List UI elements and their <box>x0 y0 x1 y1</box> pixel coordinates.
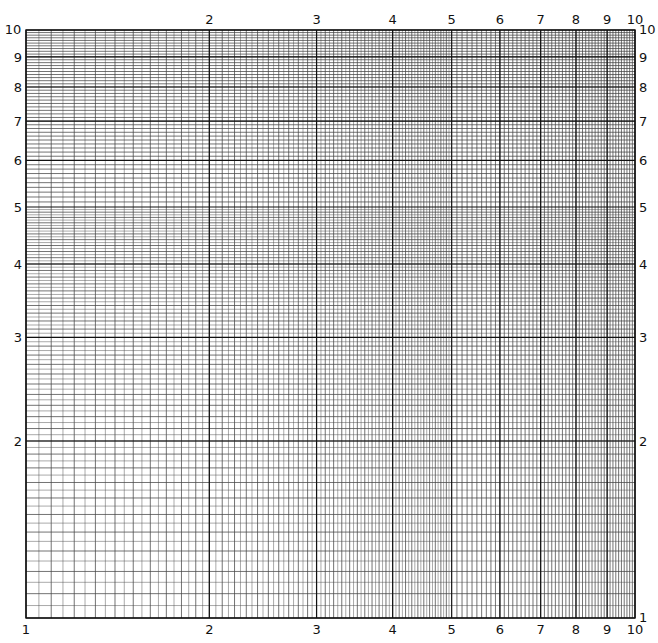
y-axis-right-label: 2 <box>639 434 647 449</box>
y-axis-left-label: 7 <box>14 114 22 129</box>
plot-frame <box>26 30 635 618</box>
y-axis-left-label: 5 <box>14 200 22 215</box>
y-axis-right-label: 6 <box>639 153 647 168</box>
x-axis-top-label: 5 <box>448 12 456 27</box>
y-axis-right-label: 1 <box>639 610 647 625</box>
y-axis-right-label: 5 <box>639 200 647 215</box>
x-axis-top-label: 4 <box>389 12 397 27</box>
y-axis-left-label: 2 <box>14 434 22 449</box>
y-axis-left-label: 10 <box>5 22 22 37</box>
y-axis-left-label: 8 <box>14 80 22 95</box>
y-axis-left-label: 6 <box>14 153 22 168</box>
x-axis-bottom-label: 3 <box>312 622 320 637</box>
y-axis-right-label: 10 <box>639 22 656 37</box>
minor-grid <box>26 30 635 618</box>
x-axis-bottom-label: 2 <box>205 622 213 637</box>
y-axis-right-label: 7 <box>639 114 647 129</box>
x-axis-bottom-label: 1 <box>22 622 30 637</box>
major-grid <box>26 30 635 618</box>
x-axis-top-label: 7 <box>537 12 545 27</box>
y-axis-left-label: 9 <box>14 50 22 65</box>
x-axis-bottom-label: 7 <box>537 622 545 637</box>
y-axis-right-label: 4 <box>639 257 647 272</box>
x-axis-top-label: 2 <box>205 12 213 27</box>
y-axis-right-label: 8 <box>639 80 647 95</box>
x-axis-bottom-label: 5 <box>448 622 456 637</box>
x-axis-bottom-label: 4 <box>389 622 397 637</box>
x-axis-bottom-label: 9 <box>603 622 611 637</box>
y-axis-right-label: 3 <box>639 330 647 345</box>
y-axis-left-label: 4 <box>14 257 22 272</box>
y-axis-right-label: 9 <box>639 50 647 65</box>
log-log-graph-paper: 2345678910123456789101098765432109876543… <box>0 0 658 643</box>
y-axis-left-label: 3 <box>14 330 22 345</box>
x-axis-top-label: 6 <box>496 12 504 27</box>
axis-labels: 2345678910123456789101098765432109876543… <box>5 12 656 637</box>
x-axis-bottom-label: 8 <box>572 622 580 637</box>
x-axis-top-label: 8 <box>572 12 580 27</box>
x-axis-top-label: 9 <box>603 12 611 27</box>
x-axis-bottom-label: 6 <box>496 622 504 637</box>
x-axis-top-label: 3 <box>312 12 320 27</box>
